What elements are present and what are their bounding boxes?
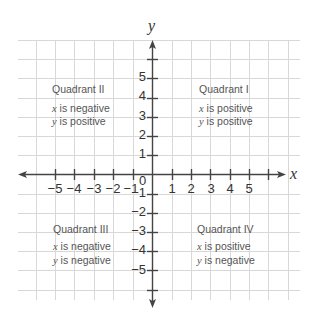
quadrant-iii-label: Quadrant III x is negative y is negative [52, 223, 111, 266]
quadrant-ii-label: Quadrant II x is negative y is positive [51, 83, 110, 127]
x-tick-label: −2 [106, 181, 121, 196]
quadrant-title: Quadrant IV [197, 223, 254, 235]
x-tick-label: 3 [207, 181, 214, 196]
y-tick-label: −4 [131, 242, 146, 257]
quadrant-title: Quadrant III [53, 223, 108, 235]
y-tick-label: 3 [139, 108, 146, 123]
x-tick-label: 5 [245, 181, 252, 196]
quadrant-x-condition: x is positive [196, 240, 251, 252]
quadrant-x-condition: x is positive [198, 102, 253, 114]
x-tick-label: 1 [168, 181, 175, 196]
quadrant-y-condition: y is positive [198, 115, 253, 127]
y-tick-label: 2 [139, 127, 146, 142]
quadrant-y-condition: y is negative [196, 254, 255, 266]
quadrant-x-condition: x is negative [51, 102, 110, 114]
y-tick-label: −2 [131, 204, 146, 219]
y-tick-label: 4 [139, 88, 146, 103]
x-tick-label: −5 [48, 181, 63, 196]
x-tick-label: 2 [187, 181, 194, 196]
y-tick-label: 5 [139, 69, 146, 84]
quadrant-title: Quadrant I [199, 83, 249, 95]
quadrant-iv-label: Quadrant IV x is positive y is negative [196, 223, 255, 266]
y-axis-label: y [146, 17, 156, 35]
y-tick-label: −1 [131, 185, 146, 200]
quadrant-x-condition: x is negative [52, 240, 111, 252]
coordinate-plane: y x 0 −5 −4 −3 −2 −1 1 2 3 4 5 5 4 3 2 1… [0, 0, 314, 321]
x-tick-label: 4 [226, 181, 233, 196]
x-axis-label: x [289, 165, 297, 182]
y-tick-label: −3 [131, 223, 146, 238]
x-tick-labels: −5 −4 −3 −2 −1 1 2 3 4 5 [48, 181, 253, 196]
quadrant-title: Quadrant II [52, 83, 105, 95]
y-tick-label: −5 [131, 262, 146, 277]
quadrant-y-condition: y is positive [51, 115, 106, 127]
x-tick-label: −3 [87, 181, 102, 196]
y-tick-label: 1 [139, 146, 146, 161]
x-tick-label: −4 [67, 181, 82, 196]
quadrant-i-label: Quadrant I x is positive y is positive [198, 83, 253, 127]
quadrant-y-condition: y is negative [52, 254, 111, 266]
